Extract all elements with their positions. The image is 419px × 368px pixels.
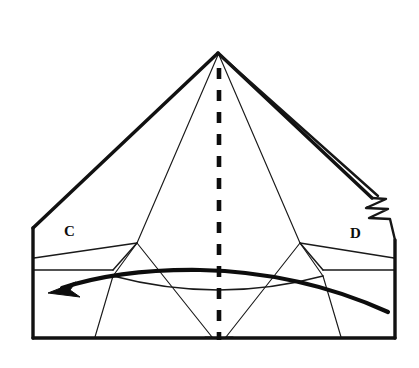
corner-label-c: C — [64, 223, 75, 239]
corner-label-d: D — [350, 225, 361, 241]
origami-figure-canvas: C D — [0, 0, 419, 368]
origami-diagram: C D — [0, 0, 419, 368]
